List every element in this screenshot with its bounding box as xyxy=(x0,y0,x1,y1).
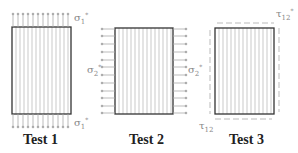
test-1-diagram xyxy=(12,13,71,128)
test-2-left-load-label: σ2* xyxy=(87,63,101,78)
test-2-fibers xyxy=(119,28,171,114)
test-3-bottom-load-label: τ12 xyxy=(199,120,213,134)
subscript: 2 xyxy=(195,70,199,78)
superscript: * xyxy=(85,11,88,18)
test-2-specimen xyxy=(115,28,173,114)
test-3-shear-arrows xyxy=(210,23,279,119)
superscript: * xyxy=(98,63,101,70)
test-1-top-arrows xyxy=(12,13,69,27)
test-3-diagram xyxy=(210,23,279,119)
subscript: 1 xyxy=(81,123,85,131)
test-1-specimen xyxy=(12,27,71,114)
sigma-symbol: σ xyxy=(87,64,94,75)
sigma-symbol: σ xyxy=(74,12,81,23)
test-2-caption: Test 2 xyxy=(129,132,164,148)
superscript: * xyxy=(290,7,293,14)
test-2-left-arrows xyxy=(101,28,115,114)
test-3-fibers xyxy=(219,28,271,114)
diagram-canvas xyxy=(0,0,298,153)
sigma-symbol: σ xyxy=(74,117,81,128)
test-1-top-load-label: σ1* xyxy=(74,11,88,26)
test-3-caption: Test 3 xyxy=(229,132,264,148)
superscript: * xyxy=(199,63,202,70)
subscript: 12 xyxy=(205,126,214,134)
subscript: 12 xyxy=(282,14,291,22)
test-2-right-arrows xyxy=(173,28,187,114)
test-2-right-load-label: σ2* xyxy=(188,63,202,78)
superscript: * xyxy=(85,116,88,123)
subscript: 1 xyxy=(81,18,85,26)
test-2-diagram xyxy=(101,28,187,114)
subscript: 2 xyxy=(94,70,98,78)
sigma-symbol: σ xyxy=(188,64,195,75)
test-1-fibers xyxy=(16,27,68,114)
test-3-specimen xyxy=(215,28,274,114)
test-3-top-load-label: τ12* xyxy=(276,7,293,22)
test-1-bottom-arrows xyxy=(12,114,69,128)
test-1-bottom-load-label: σ1* xyxy=(74,116,88,131)
test-1-caption: Test 1 xyxy=(23,132,58,148)
